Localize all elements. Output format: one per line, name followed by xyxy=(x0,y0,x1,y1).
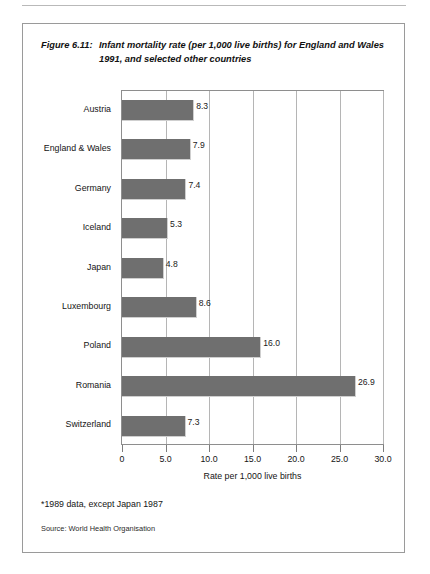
x-axis-tick-label: 10.0 xyxy=(200,454,217,465)
x-axis-tick-label: 15.0 xyxy=(244,454,261,465)
y-axis-label-iceland: Iceland xyxy=(18,222,116,233)
x-axis-tick-label: 20.0 xyxy=(287,454,304,465)
x-axis-tick-label: 0 xyxy=(120,454,125,465)
y-axis-label-romania: Romania xyxy=(18,380,116,391)
bar-chart: AustriaEngland & WalesGermanyIcelandJapa… xyxy=(23,24,406,554)
page-top-rule xyxy=(22,5,406,6)
bar[interactable] xyxy=(122,258,164,279)
x-axis-tick xyxy=(253,445,254,452)
bar[interactable] xyxy=(122,179,186,200)
bar[interactable] xyxy=(122,376,356,397)
bar-value-label: 8.6 xyxy=(199,298,211,309)
bar-row: 7.9 xyxy=(122,130,383,169)
bar-row: 7.3 xyxy=(122,407,383,446)
x-axis-tick xyxy=(209,445,210,452)
plot-area: 8.37.97.45.34.88.616.026.97.3 xyxy=(121,90,384,445)
bar-value-label: 8.3 xyxy=(196,101,208,112)
bar-row: 7.4 xyxy=(122,170,383,209)
bar-row: 26.9 xyxy=(122,367,383,406)
bar-value-label: 4.8 xyxy=(166,259,178,270)
y-axis-label-germany: Germany xyxy=(18,183,116,194)
bar-value-label: 16.0 xyxy=(263,338,280,349)
y-axis-label-poland: Poland xyxy=(18,340,116,351)
x-axis-title: Rate per 1,000 live births xyxy=(121,471,384,481)
bar-value-label: 26.9 xyxy=(358,377,375,388)
x-axis-ticks xyxy=(121,445,384,453)
bar-row: 4.8 xyxy=(122,249,383,288)
bar-rows: 8.37.97.45.34.88.616.026.97.3 xyxy=(122,91,383,444)
bar-row: 8.3 xyxy=(122,91,383,130)
x-axis-tick-labels: 05.010.015.020.025.030.0 xyxy=(121,454,384,468)
x-axis-tick-label: 5.0 xyxy=(159,454,171,465)
x-axis-tick xyxy=(383,445,384,452)
bar[interactable] xyxy=(122,139,191,160)
gridline xyxy=(383,91,384,444)
bar[interactable] xyxy=(122,100,194,121)
bar-row: 16.0 xyxy=(122,328,383,367)
bar[interactable] xyxy=(122,218,168,239)
bar-value-label: 7.3 xyxy=(188,417,200,428)
x-axis-tick-label: 30.0 xyxy=(374,454,391,465)
x-axis-tick xyxy=(122,445,123,452)
x-axis-tick xyxy=(340,445,341,452)
y-axis-label-luxembourg: Luxembourg xyxy=(18,301,116,312)
bar[interactable] xyxy=(122,416,186,437)
y-axis-label-england-wales: England & Wales xyxy=(18,143,116,154)
bar-row: 5.3 xyxy=(122,209,383,248)
y-axis-category-labels: AustriaEngland & WalesGermanyIcelandJapa… xyxy=(23,90,116,445)
bar-value-label: 5.3 xyxy=(170,219,182,230)
y-axis-label-austria: Austria xyxy=(18,104,116,115)
bar-row: 8.6 xyxy=(122,288,383,327)
bar-value-label: 7.4 xyxy=(188,180,200,191)
figure-source: Source: World Health Organisation xyxy=(41,523,155,534)
x-axis-tick xyxy=(296,445,297,452)
figure-footnote: *1989 data, except Japan 1987 xyxy=(41,498,163,510)
x-axis-tick xyxy=(166,445,167,452)
y-axis-label-switzerland: Switzerland xyxy=(18,419,116,430)
figure-box: Figure 6.11: Infant mortality rate (per … xyxy=(22,23,405,553)
bar[interactable] xyxy=(122,337,261,358)
y-axis-label-japan: Japan xyxy=(18,262,116,273)
bar-value-label: 7.9 xyxy=(193,140,205,151)
bar[interactable] xyxy=(122,297,197,318)
x-axis-tick-label: 25.0 xyxy=(331,454,348,465)
